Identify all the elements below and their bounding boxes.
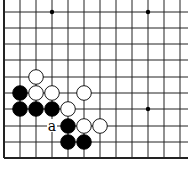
white-stone xyxy=(29,86,44,101)
white-stone xyxy=(45,86,60,101)
white-stone xyxy=(61,102,76,117)
black-stone xyxy=(13,102,28,117)
point-label-a: a xyxy=(48,118,56,134)
star-point-icon xyxy=(146,107,150,111)
white-stone xyxy=(77,119,92,134)
go-board: a xyxy=(0,0,190,170)
star-point-icon xyxy=(50,10,54,14)
white-stone xyxy=(77,86,92,101)
black-stone xyxy=(77,135,92,150)
black-stone xyxy=(61,119,76,134)
white-stone xyxy=(93,119,108,134)
white-stone xyxy=(29,70,44,85)
black-stone xyxy=(13,86,28,101)
black-stone xyxy=(29,102,44,117)
black-stone xyxy=(61,135,76,150)
black-stone xyxy=(45,102,60,117)
star-point-icon xyxy=(146,10,150,14)
labels-layer: a xyxy=(47,118,57,134)
